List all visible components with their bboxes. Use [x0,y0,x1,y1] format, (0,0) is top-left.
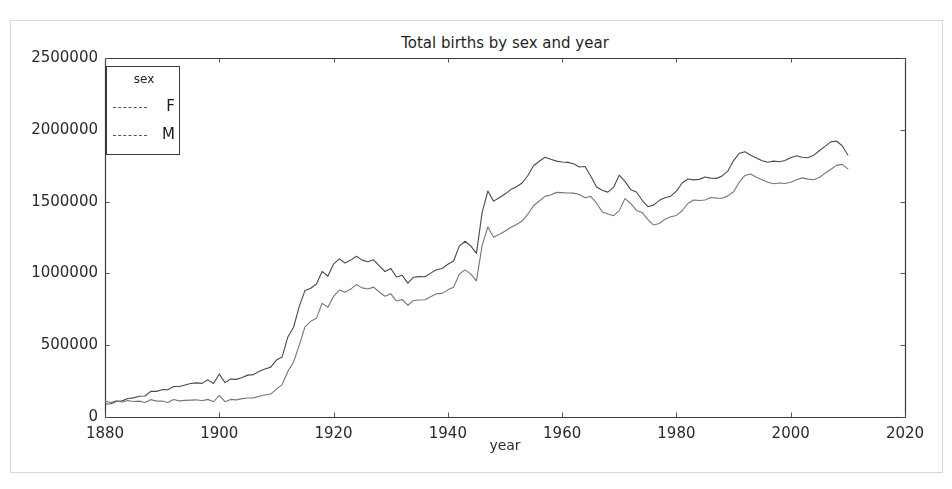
y-axis-tick-label: 1000000 [31,263,98,281]
legend-line-swatch-m [113,135,147,136]
x-axis-title: year [105,437,905,453]
y-axis-tick-label: 1500000 [31,192,98,210]
y-axis-tick-label: 0 [88,407,98,425]
y-axis-tick-label: 2000000 [31,120,98,138]
legend[interactable]: sex F M [106,66,180,155]
legend-entry-m[interactable]: M [107,123,181,149]
legend-line-swatch-f [113,107,147,108]
legend-title: sex [107,72,181,86]
y-axis-tick-label: 500000 [41,335,98,353]
legend-label-m: M [162,125,175,143]
legend-entry-f[interactable]: F [107,95,181,121]
y-axis-tick-label: 2500000 [31,48,98,66]
legend-label-f: F [166,97,175,115]
